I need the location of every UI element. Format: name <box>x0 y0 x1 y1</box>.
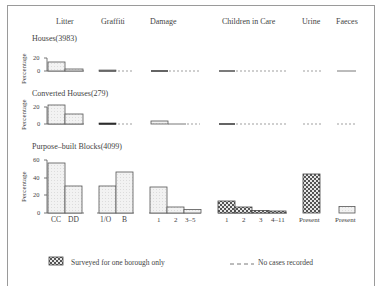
header-litter: Litter <box>56 17 74 26</box>
panel-converted-houses: Converted Houses(279) Percentage 20 0 <box>20 89 356 130</box>
y-tick-60: 60 <box>33 156 40 163</box>
column-headers: Litter Graffiti Damage Children in Care … <box>56 17 358 26</box>
x-label-cc: CC <box>51 215 61 224</box>
x-label-b: B <box>122 215 127 224</box>
x-label-damage-1: 1 <box>157 216 161 224</box>
bar-converted-litter-cc <box>48 105 65 124</box>
header-damage: Damage <box>150 17 177 26</box>
x-label-dd: DD <box>68 215 79 224</box>
bar-pb-urine <box>303 174 320 213</box>
bar-houses-graffiti-1o <box>99 70 116 72</box>
bar-pb-litter-cc <box>48 163 65 213</box>
legend-dash-label: No cases recorded <box>258 258 313 267</box>
bar-pb-damage-2 <box>167 207 184 213</box>
y-axis-label: Percentage <box>20 53 28 84</box>
x-label-children-4-11: 4–11 <box>271 216 285 224</box>
bar-houses-litter-dd <box>65 69 83 71</box>
bar-pb-children-2 <box>235 207 252 213</box>
bar-pb-graffiti-b <box>116 172 133 213</box>
y-axis-label: Percentage <box>20 171 28 202</box>
x-label-damage-2: 2 <box>174 216 178 224</box>
bar-pb-graffiti-1o <box>99 186 116 213</box>
bar-pb-damage-1 <box>150 187 167 213</box>
header-urine: Urine <box>302 17 321 26</box>
y-axis-label: Percentage <box>20 99 28 130</box>
x-label-damage-3-5: 3–5 <box>185 216 196 224</box>
y-tick-20: 20 <box>33 103 40 110</box>
y-tick-0: 0 <box>37 67 40 74</box>
x-label-1o: 1/O <box>100 215 112 224</box>
y-tick-0: 0 <box>37 209 40 216</box>
x-label-urine: Present <box>299 216 320 224</box>
panel-purpose-built: Purpose–built Blocks(4099) Percentage 60… <box>20 142 356 224</box>
panel-houses: Houses(3983) Percentage 20 0 <box>20 34 356 84</box>
bar-houses-litter-cc <box>48 62 65 71</box>
x-label-children-3: 3 <box>259 216 263 224</box>
panel-title-houses: Houses(3983) <box>32 34 77 43</box>
bar-pb-children-4-11 <box>269 211 286 213</box>
header-children-in-care: Children in Care <box>222 17 276 26</box>
y-tick-20: 20 <box>33 191 40 198</box>
panel-title-converted: Converted Houses(279) <box>32 89 109 98</box>
bar-pb-litter-dd <box>65 186 82 213</box>
y-tick-40: 40 <box>33 174 40 181</box>
panel-title-purpose-built: Purpose–built Blocks(4099) <box>32 142 122 151</box>
header-faeces: Faeces <box>336 17 358 26</box>
bar-converted-litter-dd <box>65 114 83 124</box>
y-tick-0: 0 <box>37 120 40 127</box>
bar-pb-damage-3-5 <box>184 210 201 214</box>
bar-pb-children-1 <box>218 201 235 213</box>
header-graffiti: Graffiti <box>101 17 126 26</box>
bar-pb-faeces <box>339 207 355 214</box>
bar-converted-damage-1 <box>151 121 168 124</box>
x-label-children-1: 1 <box>225 216 229 224</box>
x-label-children-2: 2 <box>242 216 246 224</box>
bar-converted-graffiti-1o <box>99 123 116 125</box>
x-label-faeces: Present <box>335 216 356 224</box>
y-tick-20: 20 <box>33 54 40 61</box>
legend-hatch-label: Surveyed for one borough only <box>71 258 165 267</box>
legend: Surveyed for one borough only No cases r… <box>49 257 313 267</box>
bar-pb-children-3 <box>252 211 269 214</box>
legend-hatch-swatch <box>49 257 63 265</box>
